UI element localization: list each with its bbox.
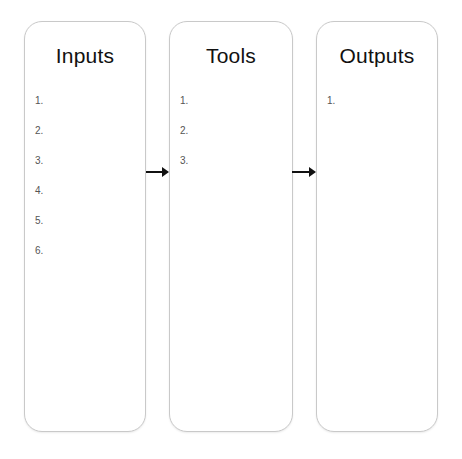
outputs-title: Outputs: [317, 44, 437, 68]
list-item: 6.: [35, 245, 43, 275]
inputs-title: Inputs: [25, 44, 145, 68]
list-item: 4.: [35, 185, 43, 215]
inputs-list: 1. 2. 3. 4. 5. 6.: [35, 95, 43, 275]
list-item: 5.: [35, 215, 43, 245]
list-item: 2.: [35, 125, 43, 155]
list-item: 1.: [327, 95, 335, 125]
list-item: 1.: [180, 95, 188, 125]
tools-card: Tools 1. 2. 3.: [169, 21, 293, 432]
list-item: 2.: [180, 125, 188, 155]
arrow-tools-to-outputs-icon: [292, 167, 316, 177]
list-item: 1.: [35, 95, 43, 125]
tools-title: Tools: [170, 44, 292, 68]
outputs-card: Outputs 1.: [316, 21, 438, 432]
tools-list: 1. 2. 3.: [180, 95, 188, 185]
outputs-list: 1.: [327, 95, 335, 125]
arrow-inputs-to-tools-icon: [146, 167, 169, 177]
list-item: 3.: [35, 155, 43, 185]
inputs-card: Inputs 1. 2. 3. 4. 5. 6.: [24, 21, 146, 432]
list-item: 3.: [180, 155, 188, 185]
